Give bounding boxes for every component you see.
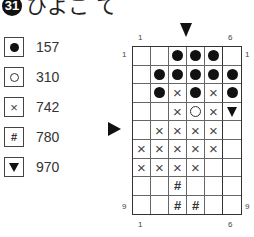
grid-cell [133, 84, 151, 103]
row-label-left-end: 9 [122, 202, 126, 211]
stitch-chart: 1 6 1 6 1 9 1 9 ×××××××××××××××××### [132, 46, 242, 215]
legend-item: 310 [4, 67, 59, 87]
legend-item: ×742 [4, 97, 59, 117]
grid-cell [187, 47, 205, 66]
grid-cell [223, 121, 241, 140]
grid-cell [133, 66, 151, 85]
filled-circle-icon [154, 69, 165, 80]
grid-cell [223, 159, 241, 178]
grid-cell [151, 47, 169, 66]
grid-cell: × [187, 159, 205, 178]
filled-circle-icon [190, 50, 201, 61]
filled-circle-icon [190, 69, 201, 80]
grid-cell [205, 196, 223, 215]
filled-circle-icon [154, 87, 165, 98]
color-legend: 157310×742#780970 [4, 37, 59, 187]
grid-cell [205, 47, 223, 66]
cross-icon: × [137, 141, 146, 156]
grid-cell [205, 66, 223, 85]
legend-symbol-box [4, 67, 24, 87]
hash-icon: # [174, 199, 181, 212]
center-marker-left-icon [108, 122, 121, 136]
col-label-bottom-start: 1 [138, 220, 142, 229]
legend-color-code: 310 [36, 69, 59, 85]
legend-color-code: 157 [36, 39, 59, 55]
grid-cell: × [187, 121, 205, 140]
triangle-down-icon [227, 107, 237, 117]
cross-icon: × [173, 141, 182, 156]
cross-icon: × [191, 160, 200, 175]
hash-icon: # [192, 199, 199, 212]
grid-cell [151, 103, 169, 122]
filled-circle-icon [190, 87, 201, 98]
grid-cell: × [205, 121, 223, 140]
grid-cell [151, 196, 169, 215]
cross-icon: × [209, 141, 218, 156]
grid-cell: × [169, 140, 187, 159]
legend-symbol-box: # [4, 127, 24, 147]
col-label-top-end: 6 [228, 33, 232, 42]
grid-cell: × [169, 159, 187, 178]
cross-icon: × [173, 104, 182, 119]
legend-symbol-box [4, 37, 24, 57]
grid-cell: × [151, 121, 169, 140]
filled-circle-icon [227, 87, 238, 98]
cross-icon: × [191, 141, 200, 156]
row-label-right-start: 1 [245, 50, 249, 59]
grid-cell: × [205, 84, 223, 103]
open-circle-icon [10, 73, 19, 82]
filled-circle-icon [172, 69, 183, 80]
cross-icon: × [155, 141, 164, 156]
cross-icon: × [209, 123, 218, 138]
cross-icon: × [137, 160, 146, 175]
center-marker-top-icon [180, 23, 192, 37]
legend-color-code: 970 [36, 159, 59, 175]
grid-cell: # [169, 177, 187, 196]
pattern-title: 31 ひよこ て [2, 0, 117, 18]
cross-icon: × [10, 101, 18, 114]
filled-circle-icon [172, 50, 183, 61]
legend-symbol-box [4, 157, 24, 177]
open-circle-icon [190, 106, 201, 117]
grid-cell [187, 84, 205, 103]
grid-cell [151, 177, 169, 196]
legend-color-code: 742 [36, 99, 59, 115]
grid-cell [187, 66, 205, 85]
stitch-grid: ×××××××××××××××××### [132, 46, 242, 215]
hash-icon: # [174, 179, 181, 192]
cross-icon: × [173, 160, 182, 175]
grid-cell: × [169, 121, 187, 140]
col-label-top-start: 1 [138, 33, 142, 42]
grid-cell [187, 177, 205, 196]
grid-cell: × [205, 103, 223, 122]
grid-cell: # [187, 196, 205, 215]
grid-cell: × [187, 140, 205, 159]
grid-cell [223, 177, 241, 196]
cross-icon: × [155, 123, 164, 138]
grid-cell: × [151, 140, 169, 159]
grid-cell [133, 177, 151, 196]
grid-cell: × [151, 159, 169, 178]
grid-cell [133, 47, 151, 66]
legend-item: 157 [4, 37, 59, 57]
grid-cell [223, 140, 241, 159]
legend-color-code: 780 [36, 129, 59, 145]
grid-cell [223, 103, 241, 122]
grid-cell [151, 66, 169, 85]
grid-cell: × [133, 159, 151, 178]
grid-cell: × [133, 140, 151, 159]
grid-cell [223, 47, 241, 66]
legend-item: 970 [4, 157, 59, 177]
filled-circle-icon [208, 50, 219, 61]
grid-cell [133, 121, 151, 140]
legend-symbol-box: × [4, 97, 24, 117]
grid-cell [133, 103, 151, 122]
triangle-down-icon [9, 163, 19, 172]
pattern-number-badge: 31 [2, 0, 22, 16]
grid-cell [223, 196, 241, 215]
row-label-right-end: 9 [245, 202, 249, 211]
grid-cell [205, 159, 223, 178]
grid-cell: # [169, 196, 187, 215]
hash-icon: # [11, 132, 17, 143]
filled-circle-icon [208, 69, 219, 80]
